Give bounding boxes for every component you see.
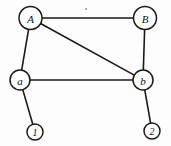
node-1[interactable]: 1 [27,124,43,140]
node-B[interactable]: B [134,7,157,30]
nodes-layer: ABab12 [10,7,160,141]
artifacts-layer [85,8,87,10]
node-2[interactable]: 2 [144,123,160,139]
edge-b-2 [145,90,151,123]
node-label-1: 1 [33,127,38,138]
node-A[interactable]: A [19,7,42,30]
edge-A-a [22,29,29,70]
node-label-B: B [142,13,149,25]
node-label-b: b [140,75,146,87]
edge-a-1 [23,90,33,125]
node-label-a: a [17,75,23,87]
edge-A-b [41,24,135,76]
node-label-2: 2 [150,126,155,137]
edge-B-b [143,29,144,70]
node-label-A: A [26,13,34,25]
edges-layer [22,18,151,124]
node-b[interactable]: b [133,70,153,90]
node-a[interactable]: a [10,70,30,90]
graph-canvas: ABab12 [0,0,171,146]
graph-diagram: ABab12 [0,0,171,146]
scan-speck [85,8,87,10]
